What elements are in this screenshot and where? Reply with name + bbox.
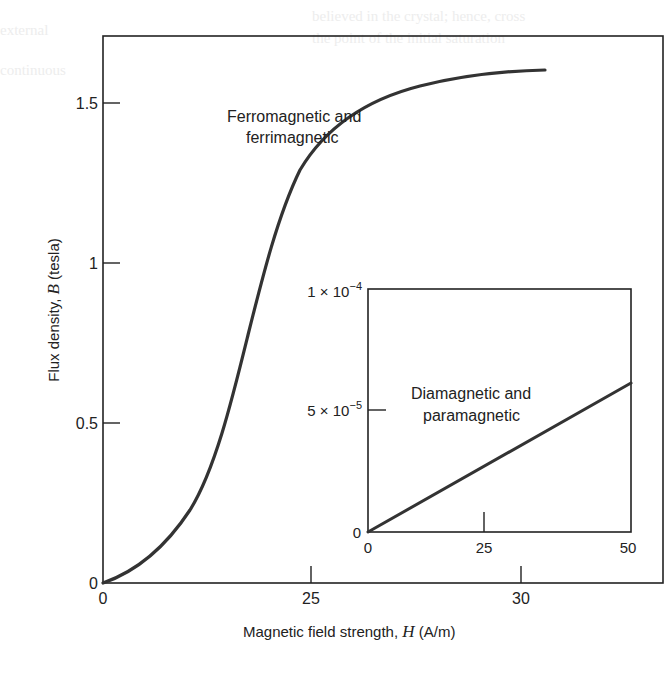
inset-x-tick-label-25: 25 bbox=[476, 539, 493, 556]
ferro-label-line2: ferrimagnetic bbox=[246, 129, 338, 146]
magnetization-chart: 1.5 1 0.5 0 0 25 30 Magnetic field stren… bbox=[0, 0, 668, 675]
y-tick-label-0-5: 0.5 bbox=[76, 415, 98, 432]
x-tick-label-25: 25 bbox=[302, 590, 320, 607]
inset-x-tick-label-50: 50 bbox=[620, 539, 637, 556]
ferro-label-line1: Ferromagnetic and bbox=[227, 108, 361, 125]
inset-plot: 1 × 10−4 5 × 10−5 0 0 25 50 Diamagnetic … bbox=[307, 280, 636, 556]
x-tick-label-30: 30 bbox=[512, 590, 530, 607]
dia-label-line2: paramagnetic bbox=[423, 407, 520, 424]
inset-y-tick-label-5e-5: 5 × 10−5 bbox=[307, 399, 362, 419]
inset-y-tick-label-1e-4: 1 × 10−4 bbox=[307, 280, 362, 300]
x-tick-label-0: 0 bbox=[99, 590, 108, 607]
y-tick-label-1-5: 1.5 bbox=[76, 95, 98, 112]
y-axis-label: Flux density, B (tesla) bbox=[44, 238, 63, 382]
inset-y-tick-label-0: 0 bbox=[353, 524, 361, 541]
y-tick-label-1: 1 bbox=[89, 255, 98, 272]
inset-x-tick-label-0: 0 bbox=[364, 539, 372, 556]
dia-label-line1: Diamagnetic and bbox=[411, 385, 531, 402]
x-axis-label: Magnetic field strength, H (A/m) bbox=[243, 622, 455, 641]
y-tick-label-0: 0 bbox=[89, 575, 98, 592]
